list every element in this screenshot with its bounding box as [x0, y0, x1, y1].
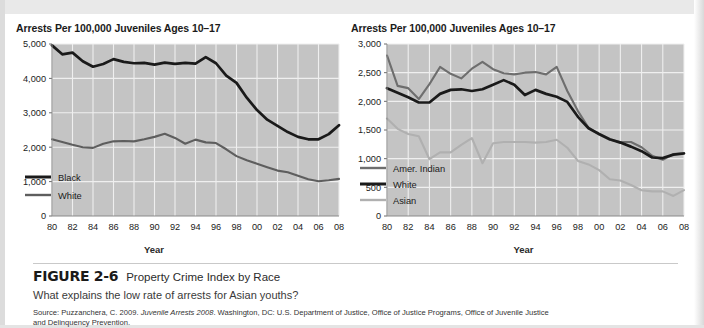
- x-tick-label: 00: [594, 222, 604, 232]
- source-line2: and Delinquency Prevention.: [33, 318, 130, 327]
- y-tick-label: 0: [41, 211, 46, 221]
- chart-left-plot: 01,0002,0003,0004,0005,00080828486889092…: [8, 38, 348, 238]
- chart-left-title: Arrests Per 100,000 Juveniles Ages 10–17: [16, 22, 221, 34]
- source-italic-title: Juvenile Arrests 2008: [141, 308, 214, 317]
- x-tick-label: 04: [636, 222, 646, 232]
- y-tick-label: 3,000: [23, 108, 46, 118]
- x-tick-label: 88: [129, 222, 139, 232]
- x-tick-label: 02: [272, 222, 282, 232]
- x-tick-label: 02: [615, 222, 625, 232]
- chart-right-svg: 05001,0001,5002,0002,5003,00080828486889…: [345, 38, 694, 238]
- figure-question: What explains the low rate of arrests fo…: [33, 289, 673, 301]
- x-tick-label: 84: [88, 222, 98, 232]
- chart-right-race-groups: Arrests Per 100,000 Juveniles Ages 10–17…: [345, 14, 694, 262]
- y-tick-label: 3,000: [358, 39, 381, 49]
- x-tick-label: 80: [47, 222, 57, 232]
- chart-right-xaxis-title: Year: [349, 244, 698, 255]
- x-tick-label: 84: [424, 222, 434, 232]
- y-tick-label: 2,500: [358, 68, 381, 78]
- y-tick-label: 2,000: [358, 97, 381, 107]
- x-tick-label: 86: [108, 222, 118, 232]
- legend-label: Amer. Indian: [393, 164, 445, 174]
- chart-left-xaxis-title: Year: [0, 244, 324, 255]
- x-tick-label: 92: [509, 222, 519, 232]
- chart-left-svg: 01,0002,0003,0004,0005,00080828486889092…: [8, 38, 348, 238]
- x-tick-label: 04: [293, 222, 303, 232]
- legend-label: Black: [58, 173, 81, 183]
- legend-label: White: [393, 180, 417, 190]
- caption-divider: [33, 263, 678, 264]
- chart-right-plot: 05001,0001,5002,0002,5003,00080828486889…: [345, 38, 694, 238]
- x-tick-label: 96: [552, 222, 562, 232]
- legend-label: White: [58, 191, 82, 201]
- caption-heading-row: FIGURE 2-6 Property Crime Index by Race: [33, 268, 673, 284]
- figure-source: Source: Puzzanchera, C. 2009. Juvenile A…: [33, 308, 688, 328]
- legend-label: Asian: [393, 196, 416, 206]
- x-tick-label: 90: [488, 222, 498, 232]
- source-prefix: Source: Puzzanchera, C. 2009.: [33, 308, 141, 317]
- x-tick-label: 94: [530, 222, 540, 232]
- figure-number: FIGURE 2-6: [33, 268, 118, 284]
- page-edge-right: [694, 0, 704, 328]
- chart-left-black-white: Arrests Per 100,000 Juveniles Ages 10–17…: [8, 14, 348, 262]
- y-tick-label: 0: [376, 211, 381, 221]
- x-tick-label: 80: [382, 222, 392, 232]
- y-tick-label: 5,000: [23, 39, 46, 49]
- page-edge-top: [0, 0, 704, 14]
- x-tick-label: 06: [313, 222, 323, 232]
- y-tick-label: 2,000: [23, 143, 46, 153]
- x-tick-label: 90: [149, 222, 159, 232]
- x-tick-label: 98: [573, 222, 583, 232]
- charts-container: Arrests Per 100,000 Juveniles Ages 10–17…: [5, 14, 694, 262]
- x-tick-label: 96: [211, 222, 221, 232]
- y-tick-label: 1,000: [358, 154, 381, 164]
- x-tick-label: 94: [190, 222, 200, 232]
- x-tick-label: 92: [170, 222, 180, 232]
- figure-caption: FIGURE 2-6 Property Crime Index by Race …: [33, 268, 673, 328]
- x-tick-label: 08: [334, 222, 344, 232]
- y-tick-label: 1,500: [358, 125, 381, 135]
- x-tick-label: 00: [252, 222, 262, 232]
- x-tick-label: 82: [403, 222, 413, 232]
- x-tick-label: 88: [467, 222, 477, 232]
- x-tick-label: 06: [658, 222, 668, 232]
- x-tick-label: 86: [446, 222, 456, 232]
- figure-page: Arrests Per 100,000 Juveniles Ages 10–17…: [0, 0, 704, 328]
- x-tick-label: 82: [67, 222, 77, 232]
- x-tick-label: 08: [679, 222, 689, 232]
- chart-right-title: Arrests Per 100,000 Juveniles Ages 10–17: [351, 22, 556, 34]
- x-tick-label: 98: [231, 222, 241, 232]
- figure-title: Property Crime Index by Race: [126, 271, 280, 283]
- y-tick-label: 4,000: [23, 74, 46, 84]
- source-suffix: . Washington, DC: U.S. Department of Jus…: [213, 308, 548, 317]
